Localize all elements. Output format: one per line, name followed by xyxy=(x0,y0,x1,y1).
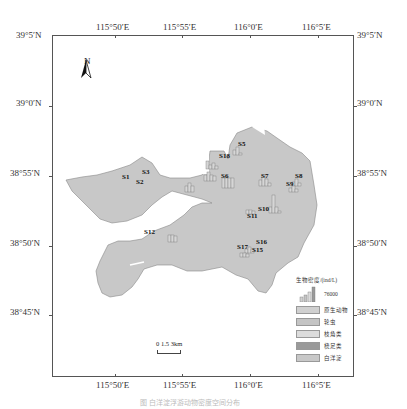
station-label-s1: S1 xyxy=(122,173,129,181)
y-tick-label-left: 38°50′N xyxy=(10,238,40,248)
legend-label: 枝角类 xyxy=(324,330,342,338)
figure-caption: 图 白洋淀浮游动物密度空间分布 xyxy=(140,397,240,407)
legend-item: 原生动物 xyxy=(296,304,352,315)
x-tick-label-top: 115°50′E xyxy=(96,22,129,32)
scale-label: 0 1.5 3km xyxy=(156,340,182,347)
legend-item: 桡足类 xyxy=(296,340,352,351)
legend-item: 白洋淀 xyxy=(296,352,352,363)
station-label-s6: S6 xyxy=(221,172,228,180)
legend-item: 枝角类 xyxy=(296,328,352,339)
legend-label: 桡足类 xyxy=(324,342,342,350)
station-label-s18: S18 xyxy=(219,152,230,160)
legend-scale-value: 76000 xyxy=(324,291,338,297)
y-tick xyxy=(354,315,357,316)
station-label-s15: S15 xyxy=(252,246,263,254)
station-label-s16: S16 xyxy=(256,238,267,246)
x-tick-label-bottom: 116°0′E xyxy=(234,380,263,390)
y-tick-label-right: 38°50′N xyxy=(357,238,387,248)
x-tick-label-top: 115°55′E xyxy=(163,22,196,32)
station-label-s5: S5 xyxy=(238,140,245,148)
scale-bar xyxy=(157,350,181,354)
y-tick-label-right: 39°0′N xyxy=(357,98,383,108)
legend: 生物密度/(ind/L) 76000 原生动物 轮虫 枝角类 桡足类 白洋淀 xyxy=(296,276,352,363)
legend-label: 原生动物 xyxy=(324,306,348,314)
y-tick-label-left: 39°5′N xyxy=(16,30,42,40)
legend-swatch xyxy=(296,354,320,362)
x-tick-label-bottom: 115°50′E xyxy=(96,380,129,390)
y-tick-label-right: 39°5′N xyxy=(357,30,383,40)
station-label-s9: S9 xyxy=(286,180,293,188)
legend-scale-row: 76000 xyxy=(296,285,352,303)
bar-scale-icon xyxy=(296,286,320,302)
legend-swatch xyxy=(296,318,320,326)
north-arrow-icon xyxy=(80,58,92,80)
station-label-s11: S11 xyxy=(247,212,258,220)
y-tick xyxy=(354,176,357,177)
station-label-s7: S7 xyxy=(261,172,268,180)
station-label-s12: S12 xyxy=(144,228,155,236)
legend-label: 白洋淀 xyxy=(324,354,342,362)
y-tick-label-left: 38°45′N xyxy=(10,307,40,317)
legend-label: 轮虫 xyxy=(324,318,336,326)
station-label-s2: S2 xyxy=(136,178,143,186)
y-tick-label-right: 38°55′N xyxy=(357,168,387,178)
station-label-s8: S8 xyxy=(295,172,302,180)
x-tick-label-bottom: 115°55′E xyxy=(163,380,196,390)
y-tick xyxy=(354,246,357,247)
y-tick xyxy=(354,106,357,107)
y-tick-label-right: 38°45′N xyxy=(357,307,387,317)
legend-title: 生物密度/(ind/L) xyxy=(296,276,352,284)
station-label-s3: S3 xyxy=(142,168,149,176)
x-tick-label-bottom: 116°5′E xyxy=(302,380,331,390)
legend-item: 轮虫 xyxy=(296,316,352,327)
x-tick-label-top: 116°0′E xyxy=(234,22,263,32)
station-label-s10: S10 xyxy=(258,205,269,213)
y-tick-label-left: 39°0′N xyxy=(16,98,42,108)
legend-swatch xyxy=(296,306,320,314)
station-label-s17: S17 xyxy=(237,243,248,251)
y-tick-label-left: 38°55′N xyxy=(10,168,40,178)
legend-swatch xyxy=(296,342,320,350)
legend-swatch xyxy=(296,330,320,338)
x-tick-label-top: 116°5′E xyxy=(302,22,331,32)
